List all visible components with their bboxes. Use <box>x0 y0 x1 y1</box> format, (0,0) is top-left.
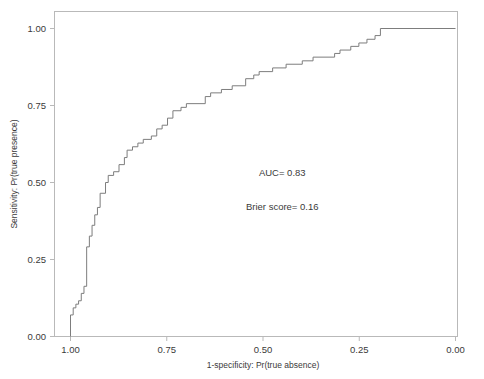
x-tick-label-100: 1.00 <box>61 344 80 355</box>
roc-curve-chart: 1.00 0.75 0.50 0.25 0.00 1.00 0.75 0.50 … <box>0 0 484 379</box>
y-tick-label-000: 0.00 <box>28 331 47 342</box>
x-tick-label-075: 0.75 <box>158 344 177 355</box>
chart-background <box>0 0 484 379</box>
y-tick-label-025: 0.25 <box>28 254 47 265</box>
x-tick-label-050: 0.50 <box>254 344 273 355</box>
y-tick-label-050: 0.50 <box>28 177 47 188</box>
brier-score-annotation: Brier score= 0.16 <box>246 201 319 212</box>
x-axis-title: 1-specificity: Pr(true absence) <box>207 360 320 370</box>
y-tick-label-075: 0.75 <box>28 100 47 111</box>
y-tick-label-100: 1.00 <box>28 23 47 34</box>
x-tick-label-025: 0.25 <box>350 344 369 355</box>
x-tick-label-000: 0.00 <box>446 344 465 355</box>
auc-annotation: AUC= 0.83 <box>259 167 306 178</box>
y-axis-title: Sensitivity: Pr(true presence) <box>9 119 19 228</box>
